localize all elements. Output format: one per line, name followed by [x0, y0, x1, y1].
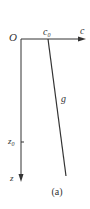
- z0-label: z0: [7, 136, 15, 147]
- origin-label: O: [9, 31, 17, 43]
- g-line: [48, 39, 66, 176]
- z-axis-label: z: [9, 173, 14, 183]
- diagram-canvas: O c0 c g z0 z (a): [0, 0, 90, 209]
- figure-caption: (a): [51, 186, 62, 198]
- c-axis-label: c: [80, 25, 85, 36]
- c0-label: c0: [43, 26, 50, 38]
- z-axis-arrow-icon: [19, 174, 24, 182]
- g-label: g: [61, 93, 66, 104]
- c-axis-arrow-icon: [78, 37, 86, 42]
